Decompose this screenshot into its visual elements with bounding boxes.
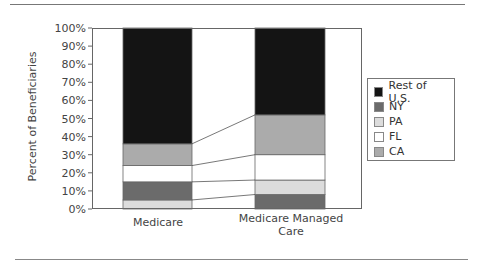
legend-swatch bbox=[374, 117, 384, 127]
y-tick-label: 50% bbox=[62, 113, 86, 126]
legend-item: Rest of U.S. bbox=[374, 84, 448, 99]
y-tick-label: 20% bbox=[62, 167, 86, 180]
legend-label: NY bbox=[389, 100, 404, 113]
y-tick-label: 100% bbox=[55, 22, 86, 35]
y-tick-label: 10% bbox=[62, 185, 86, 198]
legend-item: CA bbox=[374, 144, 448, 159]
legend-swatch bbox=[374, 147, 384, 157]
x-label-medicare: Medicare bbox=[118, 216, 198, 229]
x-label-medicare-managed-care: Medicare Managed Care bbox=[236, 212, 346, 238]
y-tick-label: 90% bbox=[62, 40, 86, 53]
y-tick-label: 80% bbox=[62, 58, 86, 71]
legend-label: PA bbox=[389, 115, 402, 128]
legend-item: FL bbox=[374, 129, 448, 144]
legend-swatch bbox=[374, 102, 384, 112]
bottom-rule bbox=[15, 259, 468, 260]
y-tick-label: 0% bbox=[69, 203, 86, 216]
legend-label: CA bbox=[389, 145, 404, 158]
y-tick-label: 40% bbox=[62, 131, 86, 144]
y-tick-label: 60% bbox=[62, 94, 86, 107]
legend-item: PA bbox=[374, 114, 448, 129]
x-label-line1: Medicare Managed bbox=[236, 212, 346, 225]
legend-swatch bbox=[374, 132, 384, 142]
legend-swatch bbox=[374, 87, 383, 97]
y-tick-label: 30% bbox=[62, 149, 86, 162]
y-tick-label: 70% bbox=[62, 76, 86, 89]
legend-label: FL bbox=[389, 130, 401, 143]
x-label-line2: Care bbox=[236, 225, 346, 238]
legend: Rest of U.S.NYPAFLCA bbox=[367, 78, 455, 161]
plot-area bbox=[92, 28, 362, 209]
